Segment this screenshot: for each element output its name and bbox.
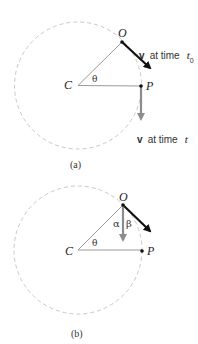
label-point-c: C bbox=[65, 245, 73, 257]
label-point-p: P bbox=[146, 80, 153, 92]
label-angle-beta: β bbox=[126, 219, 132, 229]
label-velocity-t0: v at time t0 bbox=[139, 46, 194, 64]
diagram-panel-a: O C P θ v at time t0 v at time t (a) bbox=[0, 0, 198, 172]
label-point-c: C bbox=[64, 79, 72, 91]
radius-co bbox=[78, 42, 122, 86]
point-o-dot bbox=[120, 40, 124, 44]
caption-b: (b) bbox=[71, 329, 83, 339]
label-point-o: O bbox=[118, 27, 127, 39]
label-velocity-t: v at time t bbox=[137, 130, 188, 146]
caption-a: (a) bbox=[70, 160, 81, 170]
diagram-panel-b: O C P θ α β (b) bbox=[0, 172, 198, 344]
panel-b-drawing bbox=[0, 172, 198, 344]
vector-symbol-v: v bbox=[139, 50, 145, 61]
label-angle-theta: θ bbox=[92, 75, 97, 84]
radius-cp bbox=[78, 86, 141, 87]
label-angle-alpha: α bbox=[113, 219, 120, 229]
at-time-text: at time bbox=[148, 134, 178, 145]
point-p-dot bbox=[139, 84, 143, 88]
at-time-text: at time bbox=[150, 50, 180, 61]
time-subscript-0: 0 bbox=[190, 57, 194, 64]
label-point-o: O bbox=[119, 191, 128, 203]
vector-symbol-v: v bbox=[137, 134, 143, 145]
panel-a-drawing bbox=[0, 0, 198, 172]
point-p-dot bbox=[140, 249, 144, 253]
label-angle-theta: θ bbox=[92, 239, 97, 248]
label-point-p: P bbox=[147, 245, 154, 257]
time-symbol-t: t bbox=[185, 133, 188, 145]
